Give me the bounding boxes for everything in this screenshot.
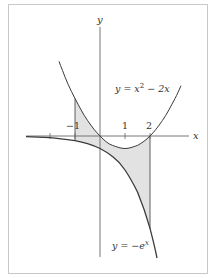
parabola-label-main: y = x bbox=[114, 83, 140, 94]
tick-label-2: 2 bbox=[146, 120, 152, 131]
exponential-label-main: y = −e bbox=[111, 240, 145, 251]
area-between-curves-diagram: y x −1 1 2 y = x2 − 2x y = −ex bbox=[0, 0, 215, 278]
y-axis-label: y bbox=[96, 14, 103, 25]
parabola-label-rest: − 2x bbox=[144, 83, 170, 94]
tick-label-neg1: −1 bbox=[66, 120, 80, 131]
tick-label-1: 1 bbox=[122, 120, 128, 131]
parabola-label: y = x2 − 2x bbox=[114, 82, 170, 94]
exponential-label-sup: x bbox=[145, 239, 149, 247]
exponential-label: y = −ex bbox=[111, 239, 149, 251]
x-axis-label: x bbox=[193, 130, 199, 141]
